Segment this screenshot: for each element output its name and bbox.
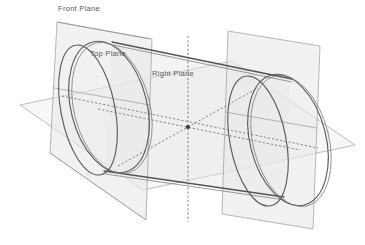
origin-point-icon[interactable]: [186, 125, 190, 129]
right-plane-surface: [222, 31, 320, 229]
front-plane-label: Front Plane: [58, 4, 100, 13]
cad-drawing-canvas: Front Plane Top Plane Right Plane: [0, 0, 365, 245]
origin-marker-group[interactable]: [186, 125, 190, 129]
cad-viewport: Front Plane Top Plane Right Plane: [0, 0, 365, 245]
right-plane-label: Right Plane: [152, 69, 194, 78]
top-plane-label: Top Plane: [90, 49, 126, 58]
right-plane-group: [222, 31, 320, 229]
